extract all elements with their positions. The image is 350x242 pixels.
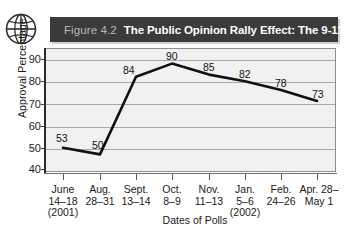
y-tick-label-60: 60 bbox=[19, 120, 41, 132]
x-category-7: Apr. 28– May 1 bbox=[288, 184, 350, 207]
figure-container: Figure 4.2 The Public Opinion Rally Effe… bbox=[0, 0, 350, 242]
y-tick-mark-70 bbox=[41, 104, 45, 105]
x-tick-mark-3 bbox=[172, 174, 173, 180]
y-tick-mark-80 bbox=[41, 81, 45, 82]
x-tick-mark-5 bbox=[245, 174, 246, 180]
y-tick-label-40: 40 bbox=[19, 163, 41, 175]
x-tick-mark-0 bbox=[63, 174, 64, 180]
figure-header: Figure 4.2 The Public Opinion Rally Effe… bbox=[0, 6, 350, 44]
gridline-90 bbox=[46, 60, 335, 61]
point-label-2: 84 bbox=[123, 64, 135, 76]
y-tick-label-70: 70 bbox=[19, 98, 41, 110]
y-axis-line bbox=[44, 48, 46, 173]
figure-title-bar: Figure 4.2 The Public Opinion Rally Effe… bbox=[50, 17, 338, 42]
point-label-5: 82 bbox=[239, 68, 251, 80]
y-tick-label-90: 90 bbox=[19, 53, 41, 65]
gridline-70 bbox=[46, 104, 335, 105]
point-label-1: 50 bbox=[92, 139, 104, 151]
plot-area bbox=[45, 48, 336, 172]
y-tick-mark-40 bbox=[41, 169, 45, 170]
point-label-0: 53 bbox=[56, 132, 68, 144]
y-axis-title: Approval Percentage bbox=[16, 3, 28, 133]
x-axis-line bbox=[44, 173, 337, 174]
x-axis-title: Dates of Polls bbox=[135, 214, 255, 226]
x-tick-mark-2 bbox=[136, 174, 137, 180]
gridline-50 bbox=[46, 149, 335, 150]
y-tick-label-50: 50 bbox=[19, 142, 41, 154]
y-tick-mark-60 bbox=[41, 126, 45, 127]
point-label-3: 90 bbox=[166, 50, 178, 62]
point-label-7: 73 bbox=[312, 88, 324, 100]
figure-number: Figure 4.2 bbox=[64, 24, 117, 36]
x-tick-mark-6 bbox=[281, 174, 282, 180]
y-tick-label-80: 80 bbox=[19, 75, 41, 87]
figure-title: The Public Opinion Rally Effect: The 9-1… bbox=[124, 24, 350, 36]
x-tick-mark-4 bbox=[209, 174, 210, 180]
y-tick-mark-50 bbox=[41, 148, 45, 149]
gridline-60 bbox=[46, 127, 335, 128]
gridline-80 bbox=[46, 82, 335, 83]
y-tick-mark-90 bbox=[41, 59, 45, 60]
x-tick-mark-7 bbox=[317, 174, 318, 180]
point-label-4: 85 bbox=[203, 61, 215, 73]
x-tick-mark-1 bbox=[100, 174, 101, 180]
point-label-6: 78 bbox=[275, 77, 287, 89]
